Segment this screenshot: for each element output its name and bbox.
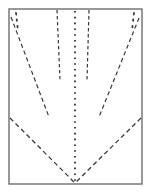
diagram-root: Folding pattern diagram Rectangular pane… <box>0 0 151 194</box>
folding-pattern-diagram: Folding pattern diagram Rectangular pane… <box>0 0 151 194</box>
